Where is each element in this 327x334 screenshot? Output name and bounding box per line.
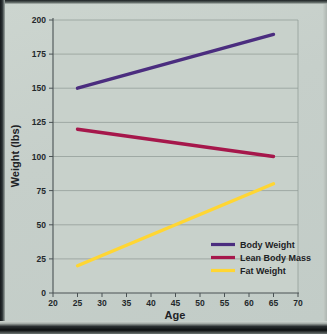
- page-edge-top: [0, 0, 327, 4]
- y-tick-marks: [49, 20, 53, 293]
- y-tick-label-200: 200: [32, 15, 46, 25]
- y-tick-label-0: 0: [41, 288, 46, 298]
- y-tick-label-175: 175: [32, 49, 46, 59]
- x-axis-title: Age: [165, 309, 186, 321]
- x-tick-marks: [53, 293, 298, 297]
- x-tick-label-20: 20: [48, 298, 58, 308]
- x-tick-label-70: 70: [293, 298, 303, 308]
- page-edge-right: [323, 0, 327, 334]
- x-tick-label-60: 60: [244, 298, 254, 308]
- legend-label-lean-body-mass: Lean Body Mass: [240, 253, 311, 263]
- y-tick-label-50: 50: [37, 220, 47, 230]
- x-tick-label-35: 35: [122, 298, 132, 308]
- x-tick-label-55: 55: [220, 298, 230, 308]
- y-tick-label-75: 75: [37, 186, 47, 196]
- legend-label-fat-weight: Fat Weight: [240, 266, 286, 276]
- x-tick-label-45: 45: [171, 298, 181, 308]
- x-tick-label-50: 50: [195, 298, 205, 308]
- line-chart: 200 175 150 125 100 75 50 25 0: [5, 4, 323, 321]
- x-tick-label-25: 25: [73, 298, 83, 308]
- page-edge-bottom: [0, 321, 327, 334]
- chart-screenshot: 200 175 150 125 100 75 50 25 0: [0, 0, 327, 334]
- y-axis-title: Weight (lbs): [9, 124, 21, 187]
- chart-canvas: 200 175 150 125 100 75 50 25 0: [5, 4, 323, 321]
- x-tick-label-65: 65: [269, 298, 279, 308]
- legend-label-body-weight: Body Weight: [240, 240, 295, 250]
- y-tick-label-150: 150: [32, 83, 46, 93]
- x-tick-label-30: 30: [97, 298, 107, 308]
- x-tick-label-40: 40: [146, 298, 156, 308]
- y-tick-label-125: 125: [32, 117, 46, 127]
- page-edge-left: [0, 0, 5, 334]
- y-tick-label-25: 25: [37, 254, 47, 264]
- y-tick-label-100: 100: [32, 152, 46, 162]
